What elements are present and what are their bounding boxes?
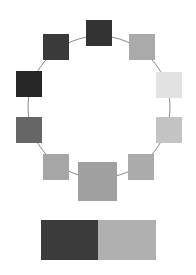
comparison-bar-dark-half	[41, 220, 98, 260]
swatch-lower-left	[16, 117, 42, 143]
swatch-right	[156, 72, 182, 98]
comparison-bar-light-half	[98, 220, 156, 260]
swatch-bottom-center	[78, 162, 117, 201]
comparison-bar	[41, 220, 156, 260]
swatch-bottom-right	[128, 154, 154, 180]
swatch-left	[16, 71, 42, 97]
swatch-lower-right	[156, 117, 182, 143]
swatch-upper-right	[129, 34, 155, 60]
color-ring-diagram	[0, 0, 196, 275]
swatch-bottom-left	[43, 154, 69, 180]
swatch-upper-left	[43, 34, 69, 60]
swatch-top	[86, 20, 112, 46]
